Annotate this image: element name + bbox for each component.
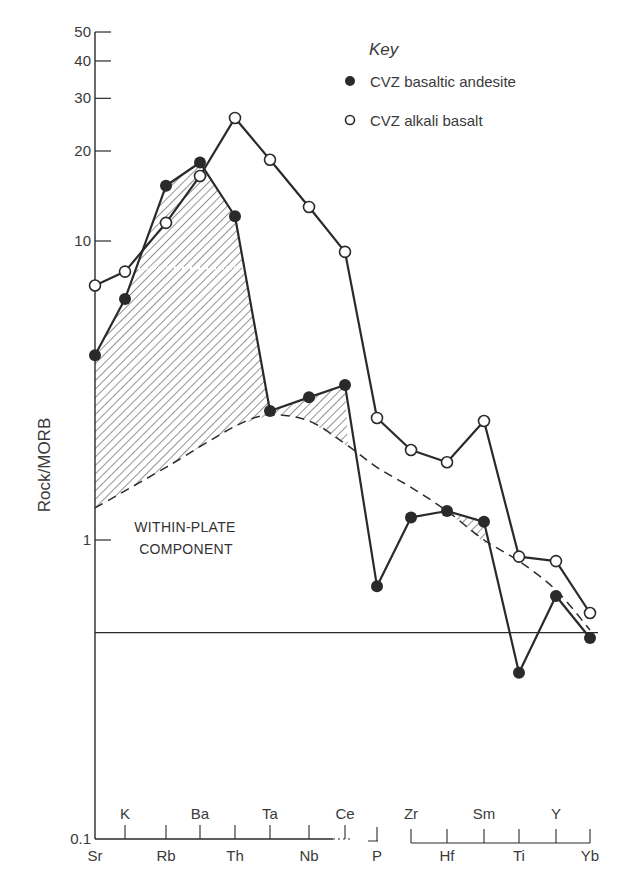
filled-circle-marker bbox=[339, 379, 351, 391]
open-circle-marker bbox=[479, 416, 490, 427]
y-tick-label: 0.1 bbox=[70, 830, 91, 847]
x-tick-label-yb: Yb bbox=[581, 847, 599, 864]
open-circle-marker bbox=[304, 201, 315, 212]
open-circle-marker bbox=[161, 217, 172, 228]
x-tick-label-zr: Zr bbox=[404, 805, 418, 822]
annotation-line-2: COMPONENT bbox=[139, 541, 233, 557]
legend-label-alkali-basalt: CVZ alkali basalt bbox=[370, 112, 483, 129]
open-circle-marker bbox=[406, 444, 417, 455]
filled-circle-marker bbox=[160, 180, 172, 192]
y-tick-label: 20 bbox=[74, 142, 91, 159]
filled-circle-marker bbox=[478, 516, 490, 528]
legend-title: Key bbox=[369, 40, 400, 59]
x-tick-label-nb: Nb bbox=[299, 847, 318, 864]
x-tick-label-k: K bbox=[120, 805, 130, 822]
open-circle-marker bbox=[442, 457, 453, 468]
annotation-line-1: WITHIN-PLATE bbox=[134, 519, 235, 535]
y-tick-label: 10 bbox=[74, 232, 91, 249]
x-tick-label-y: Y bbox=[551, 805, 561, 822]
filled-circle-marker bbox=[405, 511, 417, 523]
y-tick-label: 50 bbox=[74, 23, 91, 40]
filled-circle-marker bbox=[194, 157, 206, 169]
x-tick-label-ti: Ti bbox=[513, 847, 525, 864]
x-tick-label-ce: Ce bbox=[335, 805, 354, 822]
x-tick-label-sm: Sm bbox=[473, 805, 496, 822]
filled-circle-marker bbox=[119, 293, 131, 305]
open-circle-marker bbox=[90, 280, 101, 291]
filled-circle-marker bbox=[264, 405, 276, 417]
y-tick-label: 1 bbox=[83, 531, 91, 548]
filled-circle-marker bbox=[584, 632, 596, 644]
open-circle-marker bbox=[195, 170, 206, 181]
x-tick-label-sr: Sr bbox=[88, 847, 103, 864]
filled-circle-marker bbox=[371, 580, 383, 592]
open-circle-marker bbox=[340, 246, 351, 257]
open-circle-marker bbox=[514, 551, 525, 562]
spider-diagram: 0.111020304050SrKRbBaThTaNbCePZrHfSmTiYY… bbox=[0, 0, 628, 888]
open-circle-icon bbox=[346, 116, 355, 125]
filled-circle-marker bbox=[550, 590, 562, 602]
open-circle-marker bbox=[551, 556, 562, 567]
within-plate-annotation: WITHIN-PLATE COMPONENT bbox=[134, 519, 235, 557]
x-tick-label-rb: Rb bbox=[156, 847, 175, 864]
legend: Key CVZ basaltic andesite CVZ alkali bas… bbox=[345, 40, 516, 129]
y-tick-label: 40 bbox=[74, 52, 91, 69]
y-tick-label: 30 bbox=[74, 89, 91, 106]
x-tick-label-ta: Ta bbox=[262, 805, 279, 822]
filled-circle-icon bbox=[345, 76, 355, 86]
x-tick-label-p: P bbox=[372, 847, 382, 864]
filled-circle-marker bbox=[89, 349, 101, 361]
open-circle-marker bbox=[120, 266, 131, 277]
open-circle-marker bbox=[585, 607, 596, 618]
open-circle-marker bbox=[372, 412, 383, 423]
x-tick-label-ba: Ba bbox=[191, 805, 210, 822]
x-tick-label-th: Th bbox=[226, 847, 244, 864]
filled-circle-marker bbox=[441, 505, 453, 517]
filled-circle-marker bbox=[303, 391, 315, 403]
y-axis-title: Rock/MORB bbox=[35, 418, 54, 512]
filled-circle-marker bbox=[513, 667, 525, 679]
legend-label-basaltic-andesite: CVZ basaltic andesite bbox=[370, 73, 516, 90]
x-tick-label-hf: Hf bbox=[440, 847, 456, 864]
open-circle-marker bbox=[265, 154, 276, 165]
filled-circle-marker bbox=[229, 210, 241, 222]
open-circle-marker bbox=[230, 112, 241, 123]
